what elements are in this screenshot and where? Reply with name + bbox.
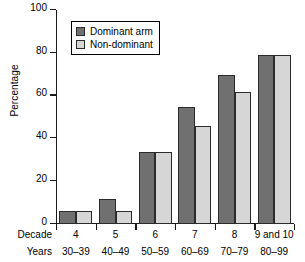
decade-value-5: 9 and 10 xyxy=(254,229,294,240)
decade-row-title: Decade xyxy=(0,229,52,240)
y-tick-label-20: 20 xyxy=(36,173,47,184)
bar-dominant-decade-9-and-10 xyxy=(258,55,275,224)
bar-dominant-decade-7 xyxy=(178,107,195,224)
years-value-3: 60–69 xyxy=(175,246,215,257)
y-tick-label-100: 100 xyxy=(30,2,47,13)
years-value-4: 70–79 xyxy=(215,246,255,257)
bar-non-dominant-decade-4 xyxy=(76,211,93,224)
non-dominant-swatch-icon xyxy=(76,40,85,49)
y-tick-60: 60 xyxy=(50,94,56,95)
y-axis-label: Percentage xyxy=(9,51,20,131)
y-tick-label-40: 40 xyxy=(36,130,47,141)
y-tick-80: 80 xyxy=(50,52,56,53)
y-tick-40: 40 xyxy=(50,137,56,138)
years-value-5: 80–99 xyxy=(254,246,294,257)
bar-non-dominant-decade-9-and-10 xyxy=(274,55,291,224)
y-tick-label-80: 80 xyxy=(36,45,47,56)
y-axis-line xyxy=(56,10,57,224)
decade-value-0: 4 xyxy=(56,229,96,240)
bar-non-dominant-decade-5 xyxy=(116,211,133,224)
decade-value-4: 8 xyxy=(215,229,255,240)
decade-value-1: 5 xyxy=(96,229,136,240)
years-value-2: 50–59 xyxy=(135,246,175,257)
dominant-arm-swatch-icon xyxy=(76,27,85,36)
years-row-title: Years xyxy=(0,246,52,257)
bar-non-dominant-decade-6 xyxy=(155,152,172,224)
legend-label-non-dominant: Non-dominant xyxy=(90,39,153,50)
y-tick-label-0: 0 xyxy=(41,216,47,227)
y-tick-100: 100 xyxy=(50,9,56,10)
bar-dominant-decade-5 xyxy=(99,199,116,224)
decade-row: Decade 456789 and 10 xyxy=(0,228,305,244)
years-value-1: 40–49 xyxy=(96,246,136,257)
decade-value-2: 6 xyxy=(135,229,175,240)
bar-dominant-decade-4 xyxy=(59,211,76,224)
legend-label-dominant-arm: Dominant arm xyxy=(90,26,153,37)
years-row: Years 30–3940–4950–5960–6970–7980–99 xyxy=(0,245,305,261)
years-value-0: 30–39 xyxy=(56,246,96,257)
bar-non-dominant-decade-8 xyxy=(235,92,252,224)
bar-dominant-decade-8 xyxy=(218,75,235,224)
bar-chart-figure: Percentage 020406080100 Dominant arm Non… xyxy=(0,0,305,262)
bar-dominant-decade-6 xyxy=(139,152,156,224)
bar-non-dominant-decade-7 xyxy=(195,126,212,224)
y-tick-20: 20 xyxy=(50,180,56,181)
decade-value-3: 7 xyxy=(175,229,215,240)
y-tick-label-60: 60 xyxy=(36,87,47,98)
legend-item-non-dominant: Non-dominant xyxy=(76,38,153,51)
legend-item-dominant-arm: Dominant arm xyxy=(76,25,153,38)
chart-legend: Dominant arm Non-dominant xyxy=(71,21,160,55)
